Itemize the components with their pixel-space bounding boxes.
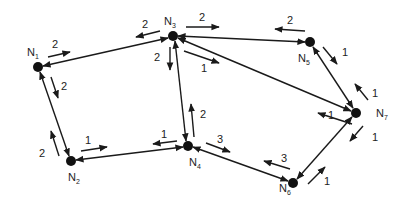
node-n1 (33, 62, 43, 72)
network-diagram: N1 N2 N3 N4 N5 N6 N7 2 2 2 2 1 1 2 2 2 2… (0, 0, 408, 201)
weight-n6-n7: 1 (324, 175, 330, 187)
dir-arrow-n5-n7 (323, 47, 337, 64)
weight-n7-n3: 1 (328, 109, 334, 121)
weight-n2-n4: 1 (85, 134, 91, 146)
weight-n3-n4: 2 (154, 51, 160, 63)
dir-arrow-n7-n6 (350, 126, 363, 141)
node-label-n2: N2 (68, 171, 80, 185)
weight-n4-n2: 1 (161, 128, 167, 140)
node-label-n1: N1 (27, 46, 39, 60)
dir-arrow-n3-n1 (136, 31, 160, 37)
diagram-svg: N1 N2 N3 N4 N5 N6 N7 2 2 2 2 1 1 2 2 2 2… (0, 0, 408, 201)
dir-arrow-n1-n2 (51, 77, 58, 98)
dir-arrow-n1-n3 (48, 52, 70, 57)
weight-n1-n3: 2 (52, 38, 58, 50)
weight-n3-n5: 2 (199, 11, 205, 23)
node-label-n4: N4 (189, 156, 201, 170)
weight-n4-n6: 3 (217, 133, 223, 145)
weight-n5-n7: 1 (342, 46, 348, 58)
edge-n1-n3 (43, 38, 168, 66)
weight-n2-n1: 2 (39, 147, 45, 159)
dir-arrow-n2-n1 (51, 131, 59, 156)
node-n7 (351, 108, 361, 118)
dir-arrow-n7-n3 (318, 113, 352, 124)
weight-n4-n3: 2 (200, 108, 206, 120)
weight-n5-n3: 2 (287, 14, 293, 26)
node-label-n7: N7 (376, 107, 388, 121)
node-label-n5: N5 (298, 52, 310, 66)
edge-n6-n7 (297, 117, 352, 179)
edge-n3-n5 (178, 36, 305, 42)
weight-n6-n4: 3 (281, 152, 287, 164)
dir-arrow-n5-n3 (275, 29, 305, 31)
weight-n3-n7: 1 (201, 62, 207, 74)
dir-arrow-n4-n2 (153, 141, 177, 144)
edge-n3-n4 (175, 41, 186, 141)
node-n5 (305, 37, 315, 47)
weight-n1-n2: 2 (61, 80, 67, 92)
node-n3 (168, 31, 178, 41)
dir-arrow-n2-n4 (81, 147, 107, 151)
node-n4 (183, 141, 193, 151)
dir-arrow-n6-n7 (308, 167, 325, 184)
node-label-n3: N3 (164, 15, 176, 29)
weight-n7-n6: 1 (372, 131, 378, 143)
dir-arrow-n4-n3 (191, 104, 194, 137)
node-n6 (288, 178, 298, 188)
node-n2 (66, 156, 76, 166)
dir-arrow-n7-n5 (355, 84, 368, 100)
weight-n3-n1: 2 (142, 18, 148, 30)
weight-n7-n5: 1 (372, 87, 378, 99)
